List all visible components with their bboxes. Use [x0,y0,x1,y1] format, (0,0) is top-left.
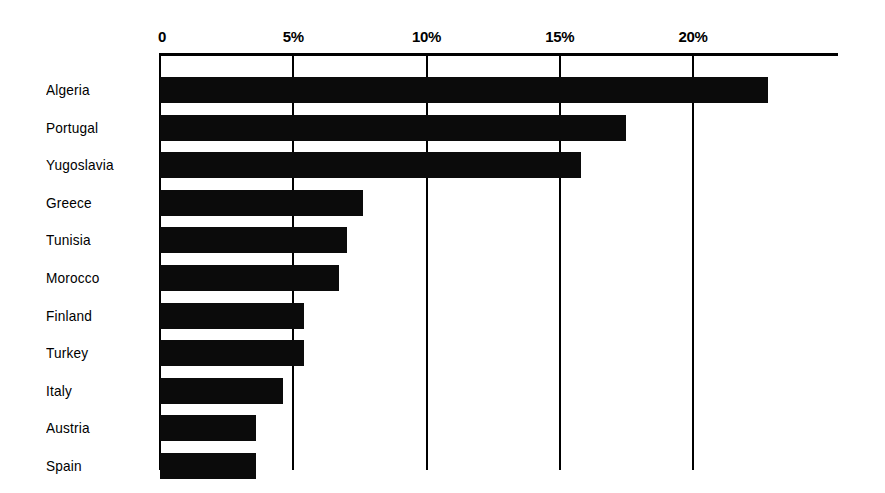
category-label: Tunisia [46,233,91,248]
bar [160,77,768,103]
category-label: Austria [46,421,90,436]
bar [160,303,304,329]
category-label: Yugoslavia [46,158,114,173]
bar [160,152,581,178]
category-label: Finland [46,309,92,324]
bar-chart: 05%10%15%20% AlgeriaPortugalYugoslaviaGr… [0,0,885,493]
bar [160,190,363,216]
category-label: Greece [46,196,92,211]
category-label: Turkey [46,346,88,361]
bar-series [0,0,885,493]
category-label: Italy [46,384,72,399]
bar [160,453,256,479]
bar [160,340,304,366]
bar [160,227,347,253]
bar [160,265,339,291]
category-label: Spain [46,459,82,474]
category-label: Algeria [46,83,90,98]
category-label: Portugal [46,121,98,136]
category-label: Morocco [46,271,100,286]
bar [160,415,256,441]
bar [160,115,626,141]
bar [160,378,283,404]
